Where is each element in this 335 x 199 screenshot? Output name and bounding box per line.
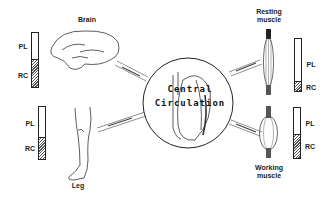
center-title-line1: Central (150, 84, 230, 94)
center-title-line2: Circulation (143, 98, 237, 108)
resting-muscle-rc-segment (295, 81, 301, 91)
leg-rc-segment (39, 137, 45, 159)
working-muscle-rc-label: RC (304, 143, 316, 151)
brain-rc-label: RC (17, 72, 29, 80)
working-muscle-bar (293, 107, 301, 159)
brain-label: Brain (72, 16, 102, 24)
brain-pl-label: PL (17, 43, 29, 51)
leg-label: Leg (68, 182, 88, 190)
connector-leg (97, 112, 146, 132)
connector-brain (115, 61, 148, 81)
leg-pl-label: PL (24, 120, 36, 128)
connector-working-muscle (229, 120, 262, 136)
leg-icon (69, 107, 91, 180)
resting-muscle-label-2: muscle (252, 16, 286, 24)
brain-icon (51, 31, 119, 69)
leg-bar (38, 106, 46, 160)
working-muscle-label-1: Working (252, 164, 286, 172)
resting-muscle-bar (294, 38, 302, 92)
resting-muscle-rc-label: RC (305, 84, 317, 92)
working-muscle-icon (260, 106, 278, 158)
working-muscle-label-2: muscle (252, 172, 286, 180)
working-muscle-pl-label: PL (304, 120, 316, 128)
resting-muscle-label-1: Resting (252, 8, 286, 16)
connector-resting-muscle (229, 60, 262, 76)
leg-rc-label: RC (24, 145, 36, 153)
working-muscle-rc-segment (294, 134, 300, 158)
resting-muscle-pl-label: PL (305, 61, 317, 69)
brain-rc-segment (32, 59, 38, 87)
brain-bar (31, 32, 39, 88)
resting-muscle-icon (264, 29, 274, 95)
